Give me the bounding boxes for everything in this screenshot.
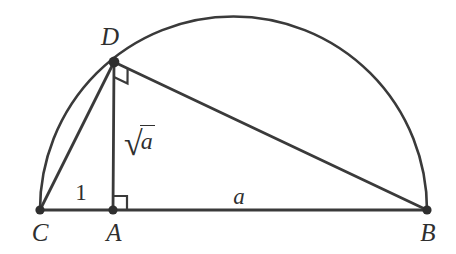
segment-da-altitude-line: [113, 62, 114, 210]
length-label-ca-one: 1: [75, 181, 87, 204]
vertex-dot-c: [35, 205, 44, 214]
length-label-ab-a: a: [233, 185, 245, 208]
geometry-canvas: [0, 0, 456, 254]
semicircle-arc-icon: [40, 17, 427, 211]
radicand-value: a: [141, 129, 153, 153]
vertex-label-b: B: [420, 220, 435, 245]
geometry-figure: D C A B 1 a √a: [0, 0, 456, 254]
right-angle-at-d-icon: [114, 68, 128, 83]
length-label-ad-sqrt-a: √a: [124, 126, 155, 160]
vertex-dot-b: [422, 205, 431, 214]
radicand-overbar: a: [140, 125, 155, 152]
vertex-label-d: D: [101, 24, 119, 49]
vertex-label-a: A: [106, 220, 121, 245]
vertex-label-c: C: [32, 220, 49, 245]
vertex-dot-d: [109, 57, 120, 68]
vertex-dot-a: [108, 205, 117, 214]
